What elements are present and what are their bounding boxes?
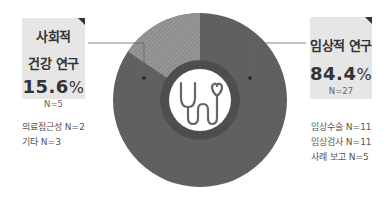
count-label: N=5 [22,99,85,110]
percentage-value: 15.6% [22,76,85,99]
breakdown-item: 임상수술 N=11 [311,120,372,135]
breakdown-item: 의료접근성 N=2 [22,120,85,135]
card-corner-fold [78,18,85,25]
breakdown-item: 기타 N=3 [22,135,85,150]
social-health-breakdown: 의료접근성 N=2 기타 N=3 [22,120,85,150]
leader-dot-left [142,76,146,80]
breakdown-item: 사례 보고 N=5 [311,150,372,165]
social-health-card: 사회적 건강 연구 15.6% N=5 [22,18,85,99]
breakdown-item: 임상검사 N=11 [311,135,372,150]
center-circle [169,69,231,131]
percentage-value: 84.4% [310,63,372,86]
card-title: 임상적 연구 [310,38,372,54]
card-corner-fold [365,17,372,24]
clinical-research-breakdown: 임상수술 N=11 임상검사 N=11 사례 보고 N=5 [311,120,372,165]
card-title-line2: 건강 연구 [22,56,85,72]
card-title-line1: 사회적 [22,29,85,45]
count-label: N=27 [310,86,372,97]
leader-dot-right [248,76,252,80]
clinical-research-card: 임상적 연구 84.4% N=27 [310,17,372,99]
